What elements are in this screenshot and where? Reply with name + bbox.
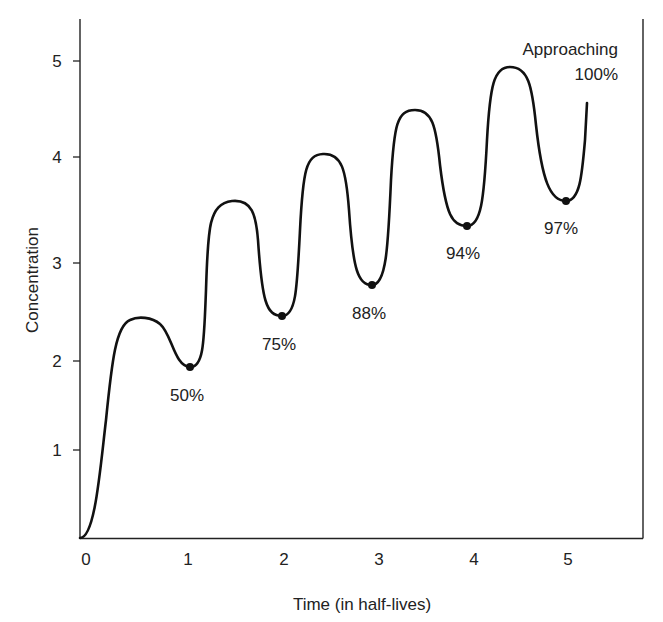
trough-dot-75 (278, 312, 286, 320)
x-tick-label: 3 (374, 550, 383, 569)
marker-label-94: 94% (446, 244, 480, 263)
y-tick-label: 2 (52, 352, 61, 371)
x-tick-label: 2 (279, 550, 288, 569)
concentration-curve (80, 67, 587, 538)
trough-dot-88 (368, 281, 376, 289)
y-ticks (73, 61, 80, 450)
trough-dot-94 (463, 222, 471, 230)
y-tick-label: 1 (52, 441, 61, 460)
y-axis-title: Concentration (23, 227, 42, 333)
marker-label-88: 88% (352, 304, 386, 323)
x-tick-label: 0 (81, 550, 90, 569)
annotation-100-percent: 100% (575, 65, 618, 84)
trough-dot-97 (562, 197, 570, 205)
y-tick-label: 5 (52, 52, 61, 71)
concentration-chart: 5 4 3 2 1 0 1 2 3 4 5 Time (in half-live… (0, 0, 663, 622)
marker-label-97: 97% (544, 219, 578, 238)
annotation-approaching: Approaching (523, 40, 618, 59)
trough-dot-50 (186, 363, 194, 371)
marker-label-50: 50% (170, 386, 204, 405)
x-tick-label: 5 (563, 550, 572, 569)
trough-markers (186, 197, 570, 371)
y-tick-label: 3 (52, 254, 61, 273)
x-axis-title: Time (in half-lives) (293, 595, 431, 614)
marker-label-75: 75% (262, 335, 296, 354)
x-tick-label: 4 (469, 550, 478, 569)
x-tick-label: 1 (183, 550, 192, 569)
y-tick-label: 4 (52, 148, 61, 167)
